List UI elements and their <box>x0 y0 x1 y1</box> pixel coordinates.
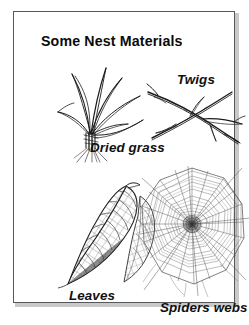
figure-title: Some Nest Materials <box>41 33 183 49</box>
caption-dried-grass: Dried grass <box>90 140 165 155</box>
caption-leaves: Leaves <box>69 288 115 303</box>
nest-materials-figure: Some Nest Materials <box>0 0 249 325</box>
caption-spiders-webs: Spiders webs <box>160 300 248 315</box>
caption-twigs: Twigs <box>177 72 215 87</box>
spider-web-illustration <box>138 164 249 298</box>
figure-plate: Some Nest Materials <box>13 11 235 303</box>
